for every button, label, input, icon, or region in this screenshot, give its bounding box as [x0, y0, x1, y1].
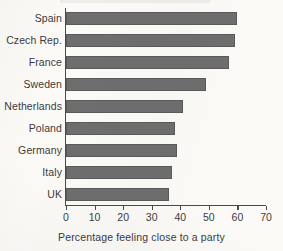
- bar-row: [66, 30, 235, 52]
- bar-row: [66, 96, 183, 118]
- bar-row: [66, 52, 229, 74]
- bar-row: [66, 117, 175, 139]
- bar: [66, 56, 229, 69]
- bar: [66, 100, 183, 113]
- x-axis-tick-mark: [123, 206, 124, 210]
- x-axis-line: [65, 205, 266, 206]
- bar-row: [66, 8, 237, 30]
- x-axis-tick-label: 0: [63, 211, 69, 223]
- x-axis-tick-label: 10: [89, 211, 101, 223]
- x-axis-tick-mark: [180, 206, 181, 210]
- scan-artifact: [60, 0, 210, 3]
- x-axis-tick-label: 30: [146, 211, 158, 223]
- category-label: Sweden: [23, 78, 62, 91]
- category-label: Spain: [35, 12, 62, 25]
- category-label: Czech Rep.: [6, 34, 62, 47]
- bar-row: [66, 183, 169, 205]
- x-axis-tick-mark: [266, 206, 267, 210]
- bar: [66, 34, 235, 47]
- x-axis-tick-label: 50: [203, 211, 215, 223]
- y-axis-line: [65, 8, 66, 206]
- category-label: Italy: [42, 166, 62, 179]
- bar: [66, 144, 177, 157]
- x-axis-tick-label: 20: [117, 211, 129, 223]
- x-axis-title: Percentage feeling close to a party: [0, 231, 283, 243]
- category-label: Germany: [18, 144, 62, 157]
- x-axis-tick-mark: [209, 206, 210, 210]
- bar-row: [66, 139, 177, 161]
- bar-row: [66, 161, 172, 183]
- x-axis-tick-label: 70: [260, 211, 272, 223]
- x-axis-tick-label: 40: [174, 211, 186, 223]
- x-axis-tick-mark: [66, 206, 67, 210]
- bar: [66, 188, 169, 201]
- x-axis-tick-label: 60: [232, 211, 244, 223]
- category-label: UK: [47, 188, 62, 201]
- bar: [66, 12, 237, 25]
- bar-row: [66, 74, 206, 96]
- x-axis-tick-mark: [152, 206, 153, 210]
- category-label: Poland: [29, 122, 62, 135]
- x-axis-tick-mark: [237, 206, 238, 210]
- bar-chart-figure: SpainCzech Rep.FranceSwedenNetherlandsPo…: [0, 0, 283, 251]
- category-label: Netherlands: [4, 100, 62, 113]
- category-label: France: [29, 56, 62, 69]
- bar: [66, 78, 206, 91]
- x-axis-tick-mark: [95, 206, 96, 210]
- bar: [66, 122, 175, 135]
- bar: [66, 166, 172, 179]
